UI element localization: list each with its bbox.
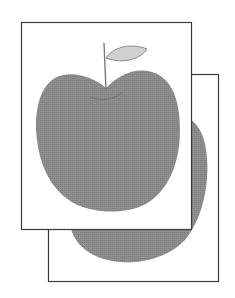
- front-card: [22, 23, 192, 230]
- apple-cards-illustration: [0, 0, 235, 298]
